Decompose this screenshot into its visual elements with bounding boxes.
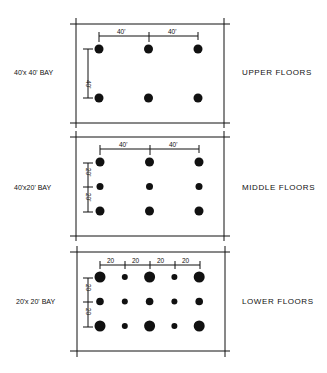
dimension-label: 20 [107, 257, 115, 264]
column-marker [95, 321, 106, 332]
column-marker [144, 321, 155, 332]
floor-label: UPPER FLOORS [242, 68, 312, 77]
column-marker [146, 183, 153, 190]
column-marker [96, 158, 105, 167]
bay-label: 40'x 40' BAY [14, 69, 53, 76]
dimension-label: 40' [168, 28, 176, 35]
dimension-label: 20' [85, 193, 92, 201]
column-marker [194, 321, 205, 332]
bay-label: 40'x20' BAY [14, 184, 52, 191]
column-marker [171, 323, 177, 329]
column-marker [95, 45, 104, 54]
column-marker [122, 323, 128, 329]
column-marker [194, 94, 203, 103]
column-marker [144, 94, 153, 103]
dimension-label: 20 [182, 257, 190, 264]
column-marker [122, 299, 128, 305]
dimension-label: 40' [85, 80, 92, 88]
column-marker [144, 272, 155, 283]
column-marker [97, 183, 104, 190]
dimension-label: 40' [117, 28, 125, 35]
column-marker [145, 207, 154, 216]
column-marker [146, 298, 154, 306]
bay-label: 20'x 20' BAY [16, 298, 55, 305]
column-marker [171, 299, 177, 305]
structural-bay-diagram: 40'x 40' BAY UPPER FLOORS 40' 40' 40' 40… [0, 0, 327, 373]
column-marker [144, 45, 153, 54]
column-marker [145, 158, 154, 167]
column-marker [95, 94, 104, 103]
column-marker [196, 183, 203, 190]
floor-label: LOWER FLOORS [242, 297, 314, 306]
dimension-label: 20 [132, 257, 140, 264]
panel-middle-floors: 40'x20' BAY MIDDLE FLOORS 40' 40' 20' 20… [14, 131, 315, 241]
column-marker [195, 207, 204, 216]
dimension-label: 20 [157, 257, 165, 264]
dimension-label: 20' [85, 168, 92, 176]
column-marker [195, 298, 203, 306]
column-marker [171, 274, 177, 280]
dimension-label: 40' [169, 141, 177, 148]
column-marker [195, 158, 204, 167]
dimension-label: 20 [85, 308, 92, 316]
column-marker [194, 272, 205, 283]
dimension-label: 20 [85, 284, 92, 292]
column-marker [194, 45, 203, 54]
panel-upper-floors: 40'x 40' BAY UPPER FLOORS 40' 40' 40' [14, 18, 312, 128]
column-marker [95, 272, 106, 283]
column-marker [122, 274, 128, 280]
column-marker [96, 298, 104, 306]
column-marker [96, 207, 105, 216]
dimension-label: 40' [119, 141, 127, 148]
panel-lower-floors: 20'x 20' BAY LOWER FLOORS 20 20 20 20 20… [16, 246, 314, 357]
floor-label: MIDDLE FLOORS [242, 183, 315, 192]
